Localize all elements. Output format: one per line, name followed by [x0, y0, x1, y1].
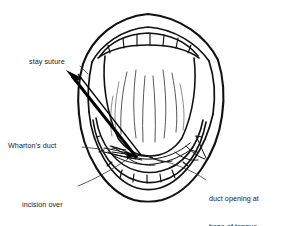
- leader-line-duct-opening: [150, 158, 206, 180]
- label-stay-suture: stay suture: [29, 57, 65, 66]
- tongue-ventral-outline: [104, 56, 195, 156]
- lingual-vein: [134, 70, 136, 138]
- upper-tooth-separator: [163, 35, 164, 46]
- right-commissure-inner: [209, 61, 214, 114]
- upper-teeth-edge-arch: [98, 45, 199, 58]
- label-incision-line-1: incision over: [22, 200, 63, 209]
- lower-tooth-separator: [133, 174, 134, 182]
- frenulum-left: [143, 76, 145, 142]
- lingual-vein: [163, 70, 166, 138]
- right-commissure-outer: [218, 60, 223, 116]
- lingual-vein-faint: [180, 84, 184, 130]
- label-duct-opening: duct opening at base of tongue near midl…: [209, 176, 259, 226]
- stay-suture-thread-secondary: [78, 74, 141, 155]
- medical-illustration-figure: stay suture Wharton's duct incision over…: [0, 0, 293, 226]
- lingual-vein: [121, 72, 127, 134]
- label-incision-over-calculus: incision over calculus: [22, 182, 63, 226]
- upper-teeth-group: [108, 34, 191, 53]
- lingual-vein: [172, 73, 177, 132]
- label-whartons-duct: Wharton's duct: [8, 141, 56, 150]
- label-duct-opening-line-1: duct opening at: [209, 194, 259, 203]
- upper-tooth-separator: [123, 38, 124, 48]
- tongue-vein-group: [111, 70, 184, 142]
- label-duct-opening-line-2: base of tongue: [209, 222, 259, 226]
- frenulum-right: [153, 76, 155, 142]
